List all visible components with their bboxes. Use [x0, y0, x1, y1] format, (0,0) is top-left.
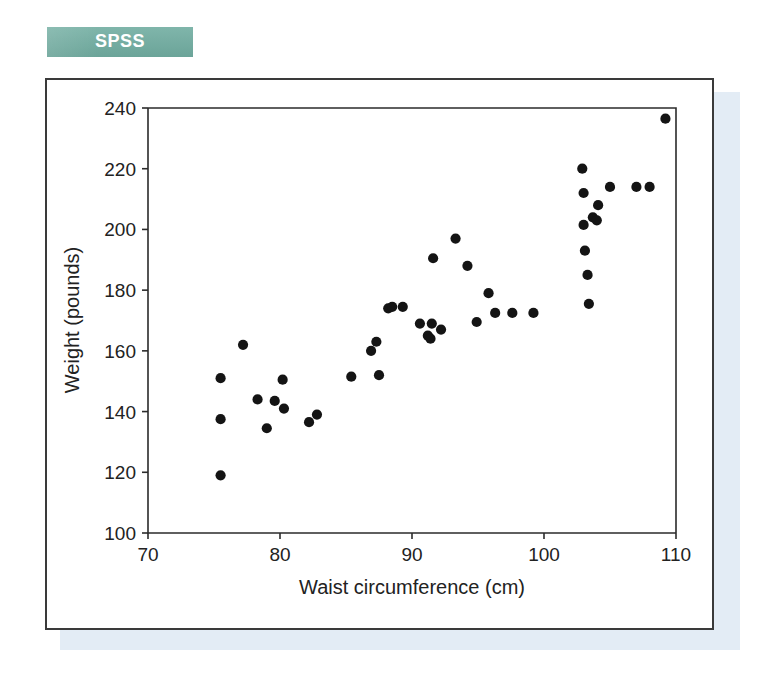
- spss-banner-label: SPSS: [47, 31, 193, 52]
- figure-frame: [45, 78, 714, 630]
- spss-banner: SPSS: [47, 27, 193, 57]
